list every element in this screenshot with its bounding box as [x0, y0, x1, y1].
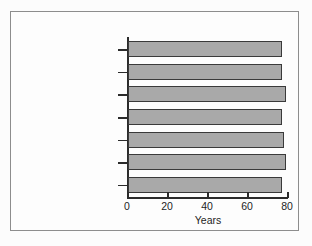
bar — [128, 132, 284, 148]
bar — [128, 64, 282, 80]
bar-row: Germany — [128, 109, 288, 125]
value-tick — [207, 192, 209, 198]
value-tick-label: 80 — [272, 200, 302, 212]
bar-row: United States — [128, 41, 288, 57]
bar — [128, 177, 282, 193]
figure-frame: United StatesDenmarkFranceGermanyItalySw… — [10, 11, 299, 231]
value-tick — [167, 192, 169, 198]
value-tick-label: 40 — [192, 200, 222, 212]
bar-row: Denmark — [128, 64, 288, 80]
bar — [128, 86, 286, 102]
bar-row: Italy — [128, 132, 288, 148]
x-axis-title: Years — [128, 214, 288, 226]
bar-row: France — [128, 86, 288, 102]
bar — [128, 109, 282, 125]
plot-area: United StatesDenmarkFranceGermanyItalySw… — [128, 38, 288, 196]
bar-row: United Kingdom — [128, 177, 288, 193]
value-tick-label: 0 — [112, 200, 142, 212]
category-tick — [118, 72, 127, 74]
value-tick — [247, 192, 249, 198]
bar — [128, 41, 282, 57]
value-tick — [127, 192, 129, 198]
category-tick — [118, 185, 127, 187]
value-tick-label: 60 — [232, 200, 262, 212]
bar-row: Sweden — [128, 154, 288, 170]
category-tick — [118, 117, 127, 119]
category-tick — [118, 140, 127, 142]
category-tick — [118, 49, 127, 51]
value-tick-label: 20 — [152, 200, 182, 212]
bar — [128, 154, 286, 170]
category-tick — [118, 162, 127, 164]
value-tick — [287, 192, 289, 198]
figure-canvas: United StatesDenmarkFranceGermanyItalySw… — [0, 0, 312, 246]
category-tick — [118, 94, 127, 96]
